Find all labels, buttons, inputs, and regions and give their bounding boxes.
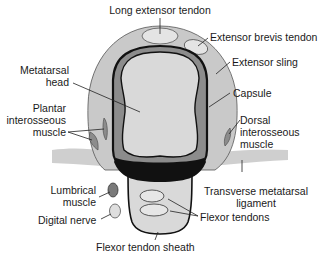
- label-lumbrical-line2: muscle: [30, 196, 96, 208]
- label-dorsal-interosseous-muscle: Dorsal interosseous muscle: [240, 114, 300, 150]
- label-digital-nerve: Digital nerve: [38, 214, 96, 226]
- label-capsule: Capsule: [233, 87, 272, 99]
- label-plantar-interosseous-muscle: Plantar interosseous muscle: [0, 102, 66, 138]
- label-metatarsal-head-line1: Metatarsal: [10, 64, 69, 76]
- lumbrical-muscle-shape: [108, 183, 118, 197]
- label-plantar-interosseous-line1: Plantar: [0, 102, 66, 114]
- label-dorsal-interosseous-line3: muscle: [240, 138, 300, 150]
- label-lumbrical-muscle: Lumbrical muscle: [30, 184, 96, 208]
- digital-nerve-shape: [110, 204, 121, 218]
- label-dorsal-interosseous-line2: interosseous: [240, 126, 300, 138]
- flexor-tendon-upper-shape: [140, 190, 164, 202]
- label-extensor-sling: Extensor sling: [232, 56, 298, 68]
- label-plantar-interosseous-line2: interosseous: [0, 114, 66, 126]
- label-transverse-metatarsal-ligament: Transverse metatarsal ligament: [192, 185, 320, 209]
- flexor-tendon-lower-shape: [140, 204, 168, 216]
- label-dorsal-interosseous-line1: Dorsal: [240, 114, 300, 126]
- metatarsal-head-shape: [121, 52, 199, 157]
- label-long-extensor-tendon: Long extensor tendon: [108, 4, 212, 16]
- label-transverse-ligament-line2: ligament: [192, 197, 320, 209]
- label-metatarsal-head: Metatarsal head: [10, 64, 69, 88]
- label-extensor-brevis-tendon: Extensor brevis tendon: [210, 31, 317, 43]
- label-lumbrical-line1: Lumbrical: [30, 184, 96, 196]
- label-transverse-ligament-line1: Transverse metatarsal: [192, 185, 320, 197]
- label-flexor-tendon-sheath: Flexor tendon sheath: [96, 241, 195, 253]
- label-plantar-interosseous-line3: muscle: [0, 126, 66, 138]
- label-metatarsal-head-line2: head: [10, 76, 69, 88]
- label-flexor-tendons: Flexor tendons: [200, 211, 269, 223]
